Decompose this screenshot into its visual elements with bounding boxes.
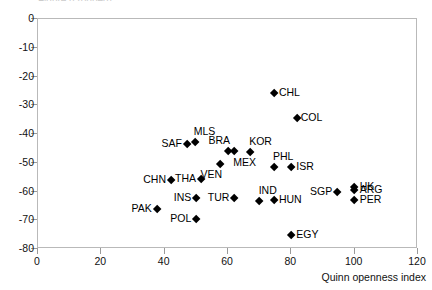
- x-tick-mark: [227, 248, 228, 254]
- x-tick-mark: [417, 248, 418, 254]
- diamond-marker-icon: [269, 88, 278, 97]
- diamond-marker-icon: [192, 194, 201, 203]
- diamond-marker-icon: [230, 147, 239, 156]
- x-tick-label: 40: [144, 256, 184, 267]
- diamond-marker-icon: [192, 214, 201, 223]
- x-tick-mark: [100, 248, 101, 254]
- diamond-marker-icon: [269, 195, 278, 204]
- data-point-label: PHL: [273, 151, 293, 162]
- diamond-marker-icon: [333, 188, 342, 197]
- data-point-label: TUR: [208, 192, 230, 203]
- scatter-chart: Figure (cropped) 0-10-20-30-40-50-60-70-…: [0, 0, 432, 290]
- x-tick-label: 80: [270, 256, 310, 267]
- x-tick-label: 20: [80, 256, 120, 267]
- x-tick-label: 120: [397, 256, 432, 267]
- data-point-label: HUN: [279, 194, 302, 205]
- x-axis-title: Quinn openness index: [322, 272, 427, 283]
- y-tick-label: -50: [4, 157, 34, 168]
- y-tick-label: -80: [4, 243, 34, 254]
- x-tick-mark: [354, 248, 355, 254]
- data-point-label: SAF: [161, 138, 181, 149]
- diamond-marker-icon: [269, 163, 278, 172]
- y-tick-label: -70: [4, 214, 34, 225]
- data-point-label: POL: [170, 213, 191, 224]
- data-point-label: CHN: [143, 174, 166, 185]
- cropped-title-sliver: Figure (cropped): [38, 0, 112, 1]
- data-point-label: KOR: [249, 136, 272, 147]
- y-tick-label: -60: [4, 186, 34, 197]
- y-tick-label: -10: [4, 42, 34, 53]
- y-tick-label: -40: [4, 128, 34, 139]
- x-tick-mark: [37, 248, 38, 254]
- diamond-marker-icon: [287, 163, 296, 172]
- y-tick-label: 0: [4, 13, 34, 24]
- data-point-label: THA: [175, 173, 196, 184]
- y-tick-label: -30: [4, 99, 34, 110]
- data-point-label: PAK: [132, 203, 152, 214]
- data-point-label: ISR: [296, 161, 314, 172]
- diamond-marker-icon: [350, 195, 359, 204]
- diamond-marker-icon: [152, 204, 161, 213]
- x-tick-label: 100: [334, 256, 374, 267]
- data-point-label: PER: [360, 194, 382, 205]
- data-point-label: BRA: [208, 135, 230, 146]
- data-point-label: EGY: [296, 229, 318, 240]
- diamond-marker-icon: [190, 137, 199, 146]
- x-tick-mark: [164, 248, 165, 254]
- diamond-marker-icon: [287, 231, 296, 240]
- data-point-label: CHL: [279, 87, 300, 98]
- data-point-label: MEX: [233, 157, 256, 168]
- x-tick-label: 0: [17, 256, 57, 267]
- diamond-marker-icon: [230, 194, 239, 203]
- x-tick-label: 60: [207, 256, 247, 267]
- data-point-label: SGP: [310, 186, 332, 197]
- x-tick-mark: [290, 248, 291, 254]
- data-point-label: COL: [301, 112, 323, 123]
- plot-area: CHLCOLMLSSAFBRAMEXKORVENPHLISRCHNTHAHKAR…: [37, 18, 417, 248]
- diamond-marker-icon: [255, 197, 264, 206]
- data-point-label: INS: [174, 192, 192, 203]
- y-tick-label: -20: [4, 71, 34, 82]
